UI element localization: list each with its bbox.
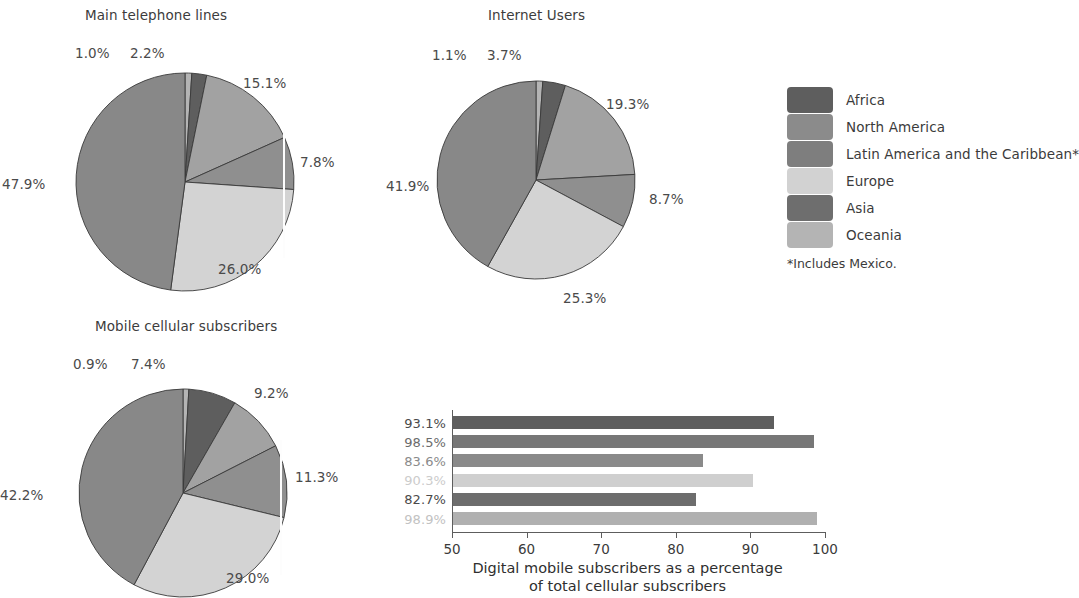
legend-label: Oceania (846, 227, 902, 243)
pie-slice-percentage-label: 9.2% (254, 387, 289, 401)
pie-slice-percentage-label: 19.3% (606, 98, 649, 112)
pie-slice-percentage-label: 7.8% (300, 156, 335, 170)
legend-label: Asia (846, 200, 875, 216)
bar-fill (452, 493, 696, 506)
x-axis-tick-label: 60 (518, 541, 535, 557)
bar-fill (452, 416, 774, 429)
pie-slice-percentage-label: 29.0% (226, 572, 269, 586)
pie-slice-percentage-label: 1.1% (432, 49, 467, 63)
x-axis-tick (676, 532, 677, 538)
bar-chart-digital-mobile-subscribers: 93.1%98.5%83.6%90.3%82.7%98.9% 506070809… (400, 410, 880, 592)
legend-swatch (787, 114, 833, 140)
pie-slice-percentage-label: 0.9% (73, 358, 108, 372)
pie-slice (76, 73, 185, 290)
pie-title-mobile-cellular-subscribers: Mobile cellular subscribers (95, 320, 277, 334)
scan-artifact-line-1 (283, 130, 285, 258)
legend-swatch (787, 141, 833, 167)
bar-row: 82.7% (452, 493, 696, 506)
bar-fill (452, 512, 817, 525)
pie-chart-main-telephone-lines-svg (75, 72, 295, 292)
pie-slice-percentage-label: 25.3% (563, 292, 606, 306)
legend-swatch (787, 168, 833, 194)
legend-item-europe[interactable]: Europe (787, 167, 1079, 194)
bar-value-label: 90.3% (404, 473, 446, 488)
x-axis-tick (750, 532, 751, 538)
bar-value-label: 82.7% (404, 492, 446, 507)
x-axis-tick (825, 532, 826, 538)
bar-value-label: 98.5% (404, 434, 446, 449)
pie-title-internet-users: Internet Users (488, 9, 585, 23)
bar-row: 83.6% (452, 454, 703, 467)
y-axis-line (452, 410, 453, 532)
legend-swatch (787, 87, 833, 113)
legend-item-oceania[interactable]: Oceania (787, 221, 1079, 248)
pie-slice-percentage-label: 15.1% (243, 77, 286, 91)
x-axis-tick (452, 532, 453, 538)
legend-swatch (787, 195, 833, 221)
pie-slice-percentage-label: 2.2% (130, 47, 165, 61)
pie-chart-mobile-cellular-subscribers-svg (78, 388, 288, 598)
x-axis-caption: Digital mobile subscribers as a percenta… (400, 560, 855, 595)
legend-swatch (787, 222, 833, 248)
x-axis-tick-label: 100 (812, 541, 838, 557)
legend-label: Africa (846, 92, 885, 108)
pie-slice-percentage-label: 47.9% (2, 178, 45, 192)
x-axis-caption-line1: Digital mobile subscribers as a percenta… (400, 560, 855, 578)
x-axis-tick-label: 50 (443, 541, 460, 557)
bar-row: 93.1% (452, 416, 774, 429)
legend-item-asia[interactable]: Asia (787, 194, 1079, 221)
bar-value-label: 83.6% (404, 453, 446, 468)
bar-fill (452, 435, 814, 448)
x-axis-tick-label: 90 (742, 541, 759, 557)
bar-value-label: 98.9% (404, 511, 446, 526)
legend-item-north-america[interactable]: North America (787, 113, 1079, 140)
legend: AfricaNorth AmericaLatin America and the… (787, 86, 1079, 248)
pie-slice-percentage-label: 1.0% (75, 47, 110, 61)
legend-label: North America (846, 119, 945, 135)
x-axis-caption-line2: of total cellular subscribers (400, 578, 855, 596)
legend-label: Europe (846, 173, 894, 189)
bar-fill (452, 474, 753, 487)
x-axis-line (452, 532, 825, 533)
legend-label: Latin America and the Caribbean* (846, 146, 1079, 162)
bar-row: 90.3% (452, 474, 753, 487)
x-axis-tick-label: 70 (593, 541, 610, 557)
x-axis-tick (527, 532, 528, 538)
pie-slice-percentage-label: 11.3% (295, 471, 338, 485)
bar-fill (452, 454, 703, 467)
bar-row: 98.9% (452, 512, 817, 525)
pie-slice-percentage-label: 26.0% (218, 263, 261, 277)
pie-slice-percentage-label: 8.7% (649, 193, 684, 207)
pie-slice-percentage-label: 7.4% (131, 358, 166, 372)
pie-title-main-telephone-lines: Main telephone lines (85, 9, 227, 23)
legend-item-africa[interactable]: Africa (787, 86, 1079, 113)
legend-footnote: *Includes Mexico. (787, 256, 897, 271)
pie-slice-percentage-label: 42.2% (0, 489, 43, 503)
pie-slice-percentage-label: 41.9% (386, 180, 429, 194)
bar-value-label: 93.1% (404, 415, 446, 430)
pie-chart-main-telephone-lines (75, 72, 295, 292)
pie-chart-mobile-cellular-subscribers (78, 388, 288, 598)
bar-row: 98.5% (452, 435, 814, 448)
legend-item-latin-america-and-the-caribbean[interactable]: Latin America and the Caribbean* (787, 140, 1079, 167)
scan-artifact-line-2 (280, 440, 282, 575)
pie-slice-percentage-label: 3.7% (487, 49, 522, 63)
x-axis-tick (601, 532, 602, 538)
x-axis-tick-label: 80 (667, 541, 684, 557)
